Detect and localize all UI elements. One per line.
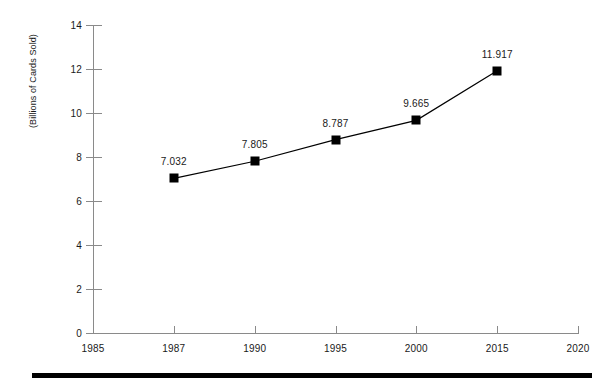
y-tick-label: 4 <box>76 240 82 251</box>
y-tick-label: 10 <box>70 108 82 119</box>
x-tick-label: 2020 <box>566 343 589 354</box>
data-point-label: 9.665 <box>403 98 429 109</box>
y-tick-label: 6 <box>76 196 82 207</box>
chart-figure: (Billions of Cards Sold) 02468101214 198… <box>0 0 616 390</box>
y-tick-mark <box>86 333 94 334</box>
series-line <box>93 25 578 333</box>
plot-area: 02468101214 1985198719901995200020152020… <box>93 25 578 333</box>
y-tick-label: 0 <box>76 328 82 339</box>
data-point-marker <box>250 157 259 166</box>
x-tick-label: 1987 <box>162 343 185 354</box>
data-point-marker <box>493 66 502 75</box>
bottom-rule <box>32 373 592 378</box>
y-axis-title: (Billions of Cards Sold) <box>28 112 38 128</box>
data-point-marker <box>331 135 340 144</box>
data-point-label: 7.805 <box>242 139 268 150</box>
data-point-marker <box>412 116 421 125</box>
data-point-marker <box>169 174 178 183</box>
y-tick-label: 8 <box>76 152 82 163</box>
x-tick-label: 1990 <box>243 343 266 354</box>
data-point-label: 7.032 <box>161 156 187 167</box>
x-tick-label: 1985 <box>81 343 104 354</box>
y-tick-label: 14 <box>70 20 82 31</box>
y-tick-label: 12 <box>70 64 82 75</box>
x-tick-mark <box>578 326 579 334</box>
data-point-label: 8.787 <box>322 118 348 129</box>
x-tick-label: 1995 <box>324 343 347 354</box>
x-tick-label: 2000 <box>405 343 428 354</box>
x-tick-label: 2015 <box>486 343 509 354</box>
data-point-label: 11.917 <box>482 49 513 60</box>
y-tick-label: 2 <box>76 284 82 295</box>
